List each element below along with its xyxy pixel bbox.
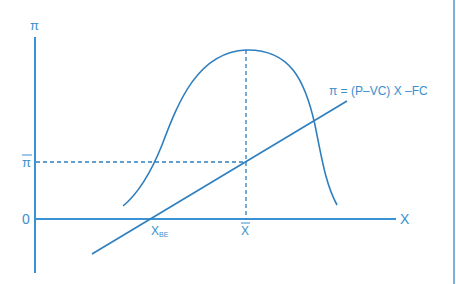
pi-bar-text: π — [22, 155, 31, 170]
linear-profit-line — [92, 101, 347, 254]
x-bar-text: X — [241, 224, 249, 238]
x-be-label: X BE — [151, 224, 169, 238]
profit-chart: π X π 0 X BE X π = (P–VC) X –FC — [0, 0, 456, 284]
profit-curve — [123, 50, 337, 206]
x-axis-label: X — [400, 211, 410, 227]
x-be-main: X — [151, 224, 159, 238]
zero-label: 0 — [22, 211, 30, 227]
y-axis-label: π — [30, 18, 39, 33]
pi-bar-label: π — [22, 155, 32, 170]
equation-label: π = (P–VC) X –FC — [329, 84, 428, 98]
x-be-subscript: BE — [159, 231, 169, 238]
x-bar-label: X — [241, 223, 250, 238]
